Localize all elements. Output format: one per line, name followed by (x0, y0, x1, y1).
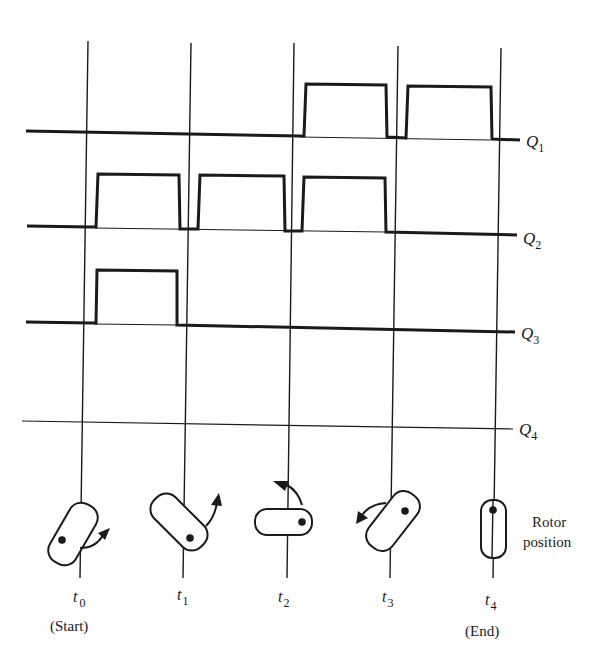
waveform-q1 (26, 84, 520, 140)
signal-label-q1: Q1 (526, 132, 544, 155)
waveform-q2 (27, 174, 517, 235)
time-line-t2 (287, 43, 294, 578)
signal-label-q4: Q4 (519, 420, 537, 443)
time-label-t4: t4 (485, 591, 496, 613)
time-labels: t0 (Start) t1 t2 t3 t4 (End) (50, 586, 499, 640)
rotor-position-caption-line2: position (523, 534, 572, 550)
time-label-t2: t2 (278, 588, 289, 610)
time-note-end: (End) (465, 623, 499, 640)
rotor-icon-t4 (481, 500, 506, 558)
signal-label-q2: Q2 (523, 229, 541, 252)
waveform-q4 (22, 421, 513, 429)
time-line-t4 (493, 48, 501, 578)
time-marker-lines (80, 41, 501, 578)
signal-labels: Q1 Q2 Q3 Q4 (519, 132, 544, 443)
time-label-t0: t0 (73, 588, 85, 610)
time-label-t3: t3 (382, 588, 393, 610)
diagram-svg: Q1 Q2 Q3 Q4 (0, 0, 611, 656)
rotor-positions (44, 481, 506, 570)
signal-label-q3: Q3 (521, 324, 539, 347)
stepper-timing-diagram: Q1 Q2 Q3 Q4 (0, 0, 611, 656)
rotor-position-caption-line1: Rotor (532, 514, 566, 530)
time-label-t1: t1 (177, 586, 188, 608)
time-line-t0 (80, 41, 88, 578)
time-note-start: (Start) (50, 618, 88, 635)
waveform-q3 (26, 270, 515, 332)
time-line-t1 (183, 43, 191, 578)
rotation-arrow-icon-t1 (211, 493, 222, 506)
rotor-icon-t0 (44, 498, 110, 570)
rotor-icon-t2 (255, 481, 312, 535)
rotation-arrow-icon-t2 (273, 481, 289, 491)
rotation-arrow-icon-t3 (356, 511, 368, 524)
